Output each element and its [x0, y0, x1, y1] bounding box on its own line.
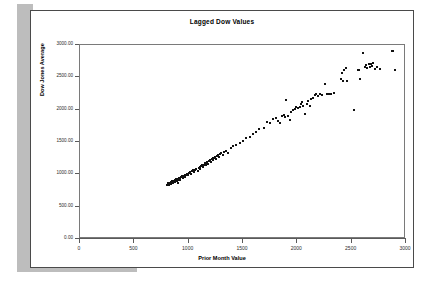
scatter-point: [210, 161, 212, 163]
scatter-point: [353, 109, 355, 111]
scatter-point: [284, 116, 286, 118]
scatter-point: [190, 173, 192, 175]
scatter-point: [374, 68, 376, 70]
scatter-point: [362, 52, 364, 54]
scatter-point: [309, 105, 311, 107]
scatter-point: [285, 99, 287, 101]
scatter-point: [342, 80, 344, 82]
scatter-point: [263, 127, 265, 129]
x-tick-label: 3000: [391, 245, 419, 251]
scatter-point: [307, 100, 309, 102]
scatter-point: [266, 121, 268, 123]
chart-sheet: Lagged Dow Values Dow Jones Average Prio…: [30, 10, 414, 268]
scatter-point: [379, 68, 381, 70]
x-tick-label: 1000: [174, 245, 202, 251]
y-tick-label: 3000.00: [39, 41, 73, 46]
scatter-point: [330, 93, 332, 95]
scatter-point: [230, 147, 232, 149]
scatter-point: [364, 66, 366, 68]
scatter-point: [193, 171, 195, 173]
scatter-point: [252, 133, 254, 135]
scatter-point: [290, 111, 292, 113]
scatter-point: [341, 72, 343, 74]
x-tick-mark: [296, 239, 297, 243]
scatter-point: [258, 128, 260, 130]
x-tick-mark: [79, 239, 80, 243]
scatter-point: [218, 156, 220, 158]
scatter-point: [187, 174, 189, 176]
scatter-point: [302, 105, 304, 107]
x-tick-mark: [405, 239, 406, 243]
screenshot-canvas: Lagged Dow Values Dow Jones Average Prio…: [0, 0, 441, 286]
scatter-point: [227, 152, 229, 154]
scatter-point: [315, 93, 317, 95]
scatter-point: [345, 67, 347, 69]
scatter-point: [232, 145, 234, 147]
scatter-point: [306, 103, 308, 105]
y-tick-mark: [75, 44, 79, 45]
x-tick-label: 2500: [337, 245, 365, 251]
y-tick-label: 1000.00: [39, 170, 73, 175]
y-tick-mark: [75, 141, 79, 142]
scatter-point: [371, 65, 373, 67]
scatter-point: [346, 80, 348, 82]
y-axis-title: Dow Jones Average: [39, 43, 45, 96]
scatter-point: [197, 170, 199, 172]
y-tick-label: 1500.00: [39, 138, 73, 143]
scatter-point: [249, 136, 251, 138]
scatter-point: [222, 154, 224, 156]
scatter-point: [321, 94, 323, 96]
y-tick-mark: [75, 206, 79, 207]
scatter-points-layer: [80, 45, 404, 237]
scatter-point: [372, 62, 374, 64]
scatter-point: [358, 69, 360, 71]
scatter-point: [359, 78, 361, 80]
scatter-point: [245, 137, 247, 139]
scatter-point: [324, 83, 326, 85]
scatter-point: [369, 66, 371, 68]
scatter-point: [242, 140, 244, 142]
y-tick-mark: [75, 173, 79, 174]
scatter-point: [394, 69, 396, 71]
y-tick-label: 2500.00: [39, 73, 73, 78]
plot-area: [79, 44, 405, 238]
scatter-point: [312, 97, 314, 99]
scatter-point: [235, 144, 237, 146]
y-tick-label: 0.00: [39, 235, 73, 240]
x-tick-label: 1500: [228, 245, 256, 251]
x-tick-label: 2000: [282, 245, 310, 251]
scatter-point: [333, 92, 335, 94]
scatter-point: [269, 122, 271, 124]
scatter-point: [279, 122, 281, 124]
scatter-point: [299, 106, 301, 108]
scatter-point: [317, 95, 319, 97]
x-axis-title: Prior Month Value: [31, 255, 413, 261]
scatter-point: [301, 101, 303, 103]
y-tick-label: 500.00: [39, 203, 73, 208]
x-tick-mark: [188, 239, 189, 243]
y-tick-label: 2000.00: [39, 106, 73, 111]
scatter-point: [289, 119, 291, 121]
scatter-point: [177, 182, 179, 184]
scatter-point: [287, 115, 289, 117]
x-tick-mark: [242, 239, 243, 243]
scatter-point: [392, 50, 394, 52]
scatter-point: [255, 131, 257, 133]
x-tick-mark: [133, 239, 134, 243]
scatter-point: [304, 113, 306, 115]
chart-title: Lagged Dow Values: [31, 18, 413, 25]
y-tick-mark: [75, 76, 79, 77]
scatter-point: [239, 142, 241, 144]
x-tick-label: 500: [119, 245, 147, 251]
x-tick-label: 0: [65, 245, 93, 251]
scatter-point: [376, 66, 378, 68]
x-tick-mark: [351, 239, 352, 243]
y-tick-mark: [75, 109, 79, 110]
scatter-point: [199, 168, 201, 170]
